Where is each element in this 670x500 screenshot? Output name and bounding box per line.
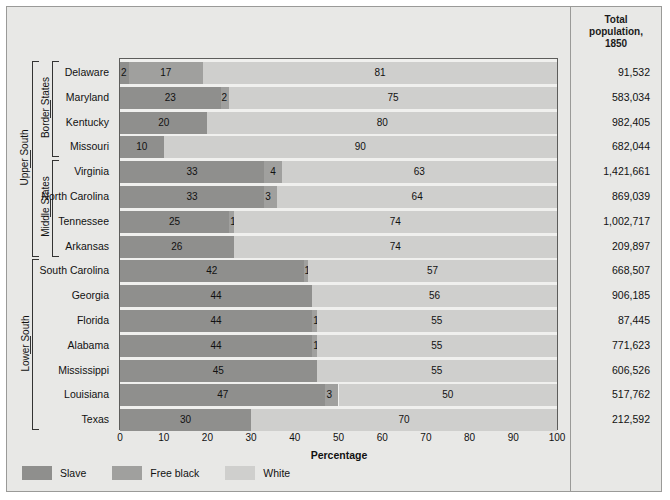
bar-segment-value: 10 (120, 136, 164, 158)
bar-segment-value: 90 (164, 136, 557, 158)
total-population-value: 87,445 (618, 309, 650, 331)
bar-row: 33364 (120, 186, 557, 208)
bar-row: 44155 (120, 335, 557, 357)
totals-header-line2: population, (574, 26, 658, 38)
bar-segment-value: 64 (277, 186, 557, 208)
state-label: Virginia (74, 160, 109, 182)
x-tick-label: 40 (275, 432, 315, 443)
total-population-value: 91,532 (618, 61, 650, 83)
bar-segment-white: 64 (277, 186, 557, 208)
chart-page: Total population, 1850 Upper SouthBorder… (0, 0, 670, 500)
bar-segment-slave: 30 (120, 409, 251, 431)
legend-item-white: White (225, 466, 290, 480)
bar-segment-value: 75 (229, 87, 557, 109)
x-tick-label: 10 (144, 432, 184, 443)
bar-row: 3070 (120, 409, 557, 431)
legend-swatch-slave (22, 466, 52, 480)
bar-segment-value: 74 (234, 236, 557, 258)
total-population-value: 583,034 (612, 86, 650, 108)
bar-segment-white: 55 (317, 335, 557, 357)
bar-segment-free-black: 2 (221, 87, 230, 109)
total-population-value: 771,623 (612, 334, 650, 356)
total-population-value: 517,762 (612, 383, 650, 405)
bar-row: 2674 (120, 236, 557, 258)
bar-segment-white: 90 (164, 136, 557, 158)
totals-divider (570, 7, 571, 491)
bar-segment-value: 3 (325, 384, 339, 406)
bar-segment-value: 45 (120, 360, 317, 382)
bar-segment-slave: 33 (120, 186, 264, 208)
bar-row: 21781 (120, 62, 557, 84)
bar-segment-white: 81 (203, 62, 557, 84)
state-label: Tennessee (58, 210, 109, 232)
x-axis-label: Percentage (119, 449, 559, 461)
bar-segment-slave: 23 (120, 87, 221, 109)
bar-row: 4456 (120, 285, 557, 307)
state-label: South Carolina (40, 259, 109, 281)
bar-segment-white: 74 (234, 211, 557, 233)
bar-segment-value: 81 (203, 62, 557, 84)
bar-segment-value: 44 (120, 285, 312, 307)
bar-segment-value: 70 (251, 409, 557, 431)
legend-swatch-free_black (112, 466, 142, 480)
total-population-value: 982,405 (612, 111, 650, 133)
bar-segment-value: 23 (120, 87, 221, 109)
bar-segment-slave: 25 (120, 211, 229, 233)
bar-row: 23275 (120, 87, 557, 109)
bar-segment-value: 47 (120, 384, 325, 406)
bar-row: 42157 (120, 260, 557, 282)
state-label: Mississippi (58, 359, 109, 381)
state-label: Delaware (65, 61, 109, 83)
bar-segment-white: 55 (317, 310, 557, 332)
bar-segment-slave: 20 (120, 112, 207, 134)
legend-swatch-white (225, 466, 255, 480)
bar-segment-slave: 42 (120, 260, 304, 282)
x-tick-label: 60 (362, 432, 402, 443)
bar-segment-slave: 2 (120, 62, 129, 84)
state-label: Missouri (70, 135, 109, 157)
state-label: Arkansas (65, 235, 109, 257)
bar-segment-value: 3 (264, 186, 278, 208)
state-label: Florida (77, 309, 109, 331)
state-label: Georgia (72, 284, 109, 306)
bar-segment-value: 63 (282, 161, 557, 183)
legend-label: Slave (60, 467, 86, 479)
bar-segment-white: 70 (251, 409, 557, 431)
bar-segment-value: 26 (120, 236, 234, 258)
total-population-value: 1,002,717 (603, 210, 650, 232)
bar-segment-slave: 33 (120, 161, 264, 183)
total-population-value: 668,507 (612, 259, 650, 281)
total-population-value: 606,526 (612, 359, 650, 381)
bar-segment-value: 33 (120, 161, 264, 183)
state-name-axis: DelawareMarylandKentuckyMissouriVirginia… (0, 58, 114, 430)
bar-segment-value: 30 (120, 409, 251, 431)
legend-item-free_black: Free black (112, 466, 199, 480)
x-tick-label: 80 (450, 432, 490, 443)
bar-segment-slave: 45 (120, 360, 317, 382)
bar-segment-slave: 44 (120, 310, 312, 332)
bar-segment-value: 55 (317, 310, 557, 332)
bar-segment-white: 74 (234, 236, 557, 258)
totals-header-line3: 1850 (574, 38, 658, 50)
bar-segment-free-black: 4 (264, 161, 281, 183)
bar-row: 25174 (120, 211, 557, 233)
x-tick-label: 90 (493, 432, 533, 443)
bar-segment-white: 55 (317, 360, 557, 382)
total-population-value: 209,897 (612, 235, 650, 257)
bar-segment-value: 20 (120, 112, 207, 134)
total-population-value: 212,592 (612, 408, 650, 430)
bar-segment-white: 80 (207, 112, 557, 134)
bar-segment-slave: 10 (120, 136, 164, 158)
bar-row: 47350 (120, 384, 557, 406)
bar-segment-value: 17 (129, 62, 203, 84)
bar-row: 1090 (120, 136, 557, 158)
bar-segment-free-black: 17 (129, 62, 203, 84)
state-label: Kentucky (66, 111, 109, 133)
bar-segment-value: 55 (317, 335, 557, 357)
totals-column: 91,532583,034982,405682,0441,421,661869,… (574, 58, 658, 430)
bar-segment-value: 80 (207, 112, 557, 134)
chart-legend: SlaveFree blackWhite (22, 463, 316, 483)
bar-segment-slave: 44 (120, 335, 312, 357)
x-tick-label: 100 (537, 432, 577, 443)
bar-segment-value: 4 (264, 161, 281, 183)
